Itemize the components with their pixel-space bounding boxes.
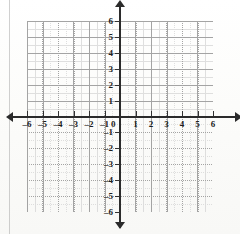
x-axis	[12, 116, 236, 118]
y-tick	[115, 85, 120, 86]
y-tick	[115, 180, 120, 181]
y-tick	[115, 21, 120, 22]
y-tick-label: –1	[27, 128, 113, 137]
y-tick-label: –3	[27, 160, 113, 169]
y-tick	[115, 212, 120, 213]
y-tick-label: –4	[27, 176, 113, 185]
y-tick	[115, 69, 120, 70]
x-tick-label: 1	[133, 120, 138, 129]
x-axis-left-arrowhead	[6, 112, 13, 122]
x-tick-label: 5	[195, 120, 200, 129]
x-tick	[136, 111, 137, 116]
y-axis-up-arrowhead	[115, 0, 125, 7]
x-tick	[89, 111, 90, 116]
x-tick	[151, 111, 152, 116]
y-tick	[115, 53, 120, 54]
y-tick-label: 1	[27, 96, 113, 105]
y-tick-label: –6	[27, 208, 113, 217]
y-tick-label: –2	[27, 144, 113, 153]
y-tick-label: 5	[27, 32, 113, 41]
x-tick-label: 6	[211, 120, 216, 129]
y-axis-down-arrowhead	[115, 222, 125, 229]
y-tick-label: –5	[27, 192, 113, 201]
x-tick	[167, 111, 168, 116]
y-tick-label: 3	[27, 64, 113, 73]
x-tick	[182, 111, 183, 116]
y-axis	[119, 6, 121, 228]
x-tick-label: 3	[164, 120, 169, 129]
x-tick-label: 2	[149, 120, 154, 129]
y-tick	[115, 196, 120, 197]
y-tick-label: 2	[27, 80, 113, 89]
coordinate-plane: x y 0 –6–5–4–3–2–1123456 –6–5–4–3–2–1123…	[27, 21, 213, 212]
y-tick	[115, 37, 120, 38]
y-tick	[115, 101, 120, 102]
x-tick-label: 4	[180, 120, 185, 129]
x-tick	[27, 111, 28, 116]
y-tick	[115, 164, 120, 165]
y-tick	[115, 148, 120, 149]
x-tick	[198, 111, 199, 116]
x-tick	[105, 111, 106, 116]
y-tick-label: 4	[27, 48, 113, 57]
x-axis-right-arrowhead	[235, 112, 240, 122]
x-tick	[43, 111, 44, 116]
x-tick	[74, 111, 75, 116]
y-tick-label: 6	[27, 17, 113, 26]
x-tick	[58, 111, 59, 116]
x-tick	[213, 111, 214, 116]
y-tick	[115, 132, 120, 133]
